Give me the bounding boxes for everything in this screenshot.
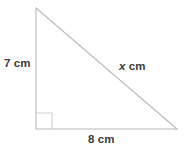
vertical-leg-label: 7 cm: [4, 58, 31, 70]
triangle-diagram: 7 cm x cm 8 cm: [0, 0, 184, 154]
horizontal-leg-label: 8 cm: [88, 134, 115, 146]
triangle-shape: [36, 8, 177, 129]
triangle-figure: [0, 0, 184, 154]
hypotenuse-label: x cm: [119, 61, 146, 73]
hypotenuse-unit: cm: [126, 60, 146, 72]
right-angle-marker-icon: [36, 113, 52, 129]
